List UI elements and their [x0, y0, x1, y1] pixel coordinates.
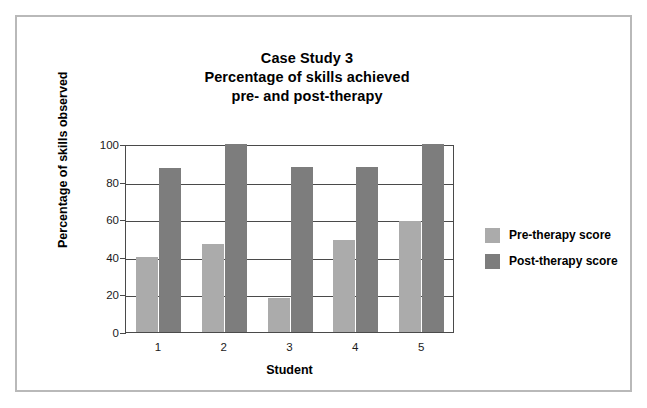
- y-tick-mark: [120, 258, 126, 259]
- chart-title-line-3: pre- and post-therapy: [107, 87, 507, 106]
- y-tick-label: 60: [89, 214, 119, 226]
- x-tick-label: 2: [204, 341, 244, 353]
- bar-group: [389, 146, 455, 332]
- legend-label: Post-therapy score: [509, 254, 618, 268]
- y-tick-mark: [120, 183, 126, 184]
- y-axis-tick-labels: 020406080100: [87, 145, 119, 333]
- y-tick-label: 0: [89, 327, 119, 339]
- figure-frame: Case Study 3 Percentage of skills achiev…: [15, 15, 632, 392]
- legend-item: Pre-therapy score: [485, 222, 618, 248]
- bar-post-student-4: [356, 167, 378, 332]
- y-tick-label: 100: [89, 139, 119, 151]
- legend-item: Post-therapy score: [485, 248, 618, 274]
- bar-pre-student-4: [333, 240, 355, 332]
- chart-title-line-2: Percentage of skills achieved: [107, 68, 507, 87]
- bar-group: [323, 146, 389, 332]
- bar-pre-student-5: [399, 221, 421, 332]
- y-tick-mark: [120, 333, 126, 334]
- x-tick-label: 3: [270, 341, 310, 353]
- chart-title-line-1: Case Study 3: [107, 49, 507, 68]
- x-tick-label: 4: [335, 341, 375, 353]
- y-axis-title: Percentage of skills observed: [56, 100, 70, 248]
- bar-group: [126, 146, 192, 332]
- bar-post-student-5: [422, 144, 444, 332]
- legend-swatch-icon: [485, 228, 500, 243]
- bar-pre-student-2: [202, 244, 224, 332]
- bar-post-student-2: [225, 144, 247, 332]
- x-tick-label: 5: [401, 341, 441, 353]
- y-tick-label: 40: [89, 252, 119, 264]
- y-tick-mark: [120, 145, 126, 146]
- chart-legend: Pre-therapy scorePost-therapy score: [485, 222, 618, 274]
- y-tick-label: 20: [89, 289, 119, 301]
- bar-group: [192, 146, 258, 332]
- legend-swatch-icon: [485, 254, 500, 269]
- y-tick-mark: [120, 220, 126, 221]
- bar-pre-student-3: [268, 298, 290, 332]
- x-tick-label: 1: [138, 341, 178, 353]
- bar-pre-student-1: [136, 257, 158, 332]
- plot-area: [125, 145, 454, 333]
- bar-post-student-3: [291, 167, 313, 332]
- chart-title: Case Study 3 Percentage of skills achiev…: [107, 49, 507, 106]
- bar-post-student-1: [159, 168, 181, 332]
- plot-inner: [126, 146, 453, 332]
- y-tick-mark: [120, 295, 126, 296]
- bar-group: [258, 146, 324, 332]
- x-axis-title: Student: [125, 363, 454, 377]
- legend-label: Pre-therapy score: [509, 228, 611, 242]
- y-tick-label: 80: [89, 177, 119, 189]
